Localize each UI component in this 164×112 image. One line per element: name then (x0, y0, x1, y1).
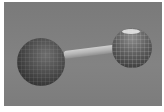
render-scene (4, 2, 162, 106)
left-sphere (17, 38, 65, 86)
sphere-grid (17, 38, 65, 86)
specular-highlight (122, 29, 140, 34)
sphere-grid (112, 28, 152, 68)
right-sphere (112, 28, 152, 68)
